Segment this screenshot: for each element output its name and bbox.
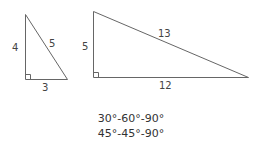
large-hypotenuse-label: 13 (158, 29, 171, 39)
right-angle-marker (94, 73, 99, 78)
large-leg-vertical-label: 5 (82, 42, 88, 52)
small-leg-vertical-label: 4 (12, 43, 18, 53)
small-leg-horizontal-label: 3 (42, 83, 48, 93)
large-right-triangle (94, 12, 249, 78)
small-hypotenuse-label: 5 (49, 39, 55, 49)
right-angle-marker (26, 75, 31, 80)
small-right-triangle (26, 15, 68, 80)
caption-45-45-90: 45°-45°-90° (0, 128, 262, 139)
caption-30-60-90: 30°-60°-90° (0, 113, 262, 124)
large-leg-horizontal-label: 12 (159, 81, 172, 91)
